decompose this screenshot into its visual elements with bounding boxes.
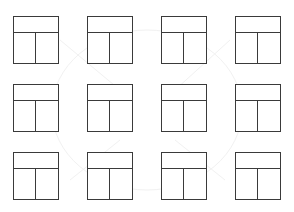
layout-left-column-region — [236, 33, 258, 64]
layout-left-column-region — [14, 33, 36, 64]
layout-header-region — [14, 17, 58, 33]
layout-right-column-region — [110, 169, 132, 200]
layout-left-column-region — [88, 169, 110, 200]
layout-left-column-region — [162, 33, 184, 64]
layout-header-region — [236, 153, 280, 169]
layout-header-region — [162, 17, 206, 33]
layout-header-region — [88, 17, 132, 33]
layout-header-region — [88, 85, 132, 101]
layout-tile-r2-c4 — [235, 84, 281, 132]
layout-header-region — [236, 17, 280, 33]
layout-tile-r1-c4 — [235, 16, 281, 64]
layout-right-column-region — [184, 169, 206, 200]
layout-header-region — [162, 85, 206, 101]
layout-right-column-region — [110, 101, 132, 132]
layout-right-column-region — [258, 33, 280, 64]
layout-right-column-region — [36, 101, 58, 132]
layout-header-region — [162, 153, 206, 169]
layout-tile-r3-c1 — [13, 152, 59, 200]
layout-left-column-region — [236, 169, 258, 200]
layout-header-region — [88, 153, 132, 169]
layout-tile-r3-c2 — [87, 152, 133, 200]
layout-left-column-region — [162, 101, 184, 132]
layout-tile-grid — [0, 0, 294, 212]
layout-right-column-region — [258, 169, 280, 200]
layout-tile-r2-c1 — [13, 84, 59, 132]
layout-header-region — [14, 153, 58, 169]
layout-left-column-region — [14, 169, 36, 200]
layout-tile-r3-c4 — [235, 152, 281, 200]
layout-left-column-region — [88, 101, 110, 132]
layout-left-column-region — [236, 101, 258, 132]
layout-left-column-region — [162, 169, 184, 200]
layout-tile-r2-c2 — [87, 84, 133, 132]
layout-header-region — [14, 85, 58, 101]
layout-right-column-region — [258, 101, 280, 132]
layout-left-column-region — [88, 33, 110, 64]
layout-left-column-region — [14, 101, 36, 132]
layout-right-column-region — [36, 33, 58, 64]
layout-right-column-region — [184, 33, 206, 64]
layout-tile-r1-c2 — [87, 16, 133, 64]
layout-tile-r2-c3 — [161, 84, 207, 132]
layout-tile-r1-c3 — [161, 16, 207, 64]
layout-header-region — [236, 85, 280, 101]
layout-right-column-region — [184, 101, 206, 132]
layout-right-column-region — [36, 169, 58, 200]
layout-tile-r1-c1 — [13, 16, 59, 64]
layout-right-column-region — [110, 33, 132, 64]
layout-tile-r3-c3 — [161, 152, 207, 200]
